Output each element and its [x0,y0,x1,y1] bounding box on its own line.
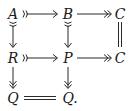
equality-c-c [119,22,122,47]
arrow-a-to-b [23,11,58,18]
arrow-p-to-c [77,55,112,62]
arrow-b-to-c [77,11,112,18]
arrow-r-to-p [23,55,58,62]
node-c-mid: C [115,51,126,65]
node-q-mid: Q. [62,91,77,105]
node-r: R [8,51,19,65]
node-c-top: C [115,7,126,21]
node-a: A [8,7,18,21]
arrow-r-to-q [10,67,17,89]
commutative-diagram: A B C R P C Q Q. [0,0,131,111]
arrow-a-to-r [10,22,17,48]
node-p: P [63,51,72,65]
node-b: B [63,7,73,21]
arrow-b-to-p [65,22,72,48]
node-q-left: Q [7,91,18,105]
equality-q-q [24,97,56,100]
arrow-p-to-q [65,67,72,89]
